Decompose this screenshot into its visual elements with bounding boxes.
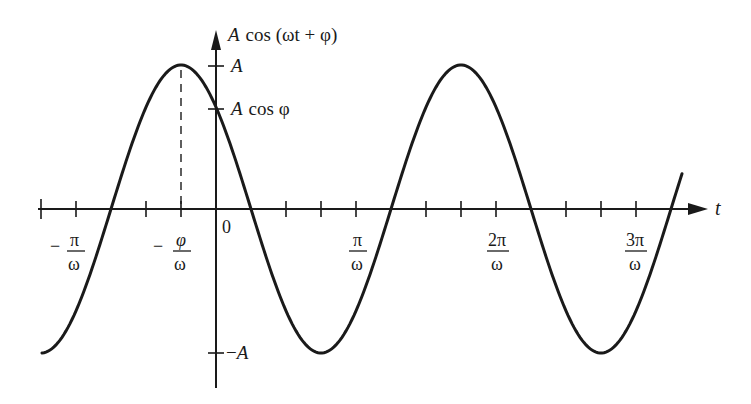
svg-text:π: π [70,230,79,250]
svg-text:ω: ω [174,254,186,274]
origin-label: 0 [222,217,231,237]
cosine-wave-figure: Acos (ωt + φ) A Acos φ −A t 0 − π ω − φ … [0,0,751,404]
svg-text:ω: ω [629,254,641,274]
x-tick-label-neg-phi-over-omega: − φ ω [153,230,191,274]
svg-text:ω: ω [351,254,363,274]
svg-text:−: − [50,236,60,256]
svg-text:ω: ω [491,254,503,274]
x-axis-title: t [715,197,721,219]
t-axis-arrow-icon [688,203,708,215]
x-tick-label-2pi-over-omega: 2π ω [487,230,509,274]
svg-text:φ: φ [176,230,186,250]
svg-text:2π: 2π [488,230,506,250]
y-tick-label-Acosphi: Acos φ [229,98,290,119]
y-axis-title: Acos (ωt + φ) [226,24,337,46]
svg-text:3π: 3π [626,230,644,250]
y-tick-label-negA: −A [226,342,249,363]
svg-text:ω: ω [68,254,80,274]
x-tick-label-3pi-over-omega: 3π ω [625,230,647,274]
y-axis-arrow-icon [211,30,221,50]
y-tick-label-A: A [229,55,243,76]
svg-text:−: − [153,236,163,256]
x-tick-label-neg-pi-over-omega: − π ω [50,230,85,274]
x-tick-label-pi-over-omega: π ω [349,230,367,274]
svg-text:π: π [353,230,362,250]
